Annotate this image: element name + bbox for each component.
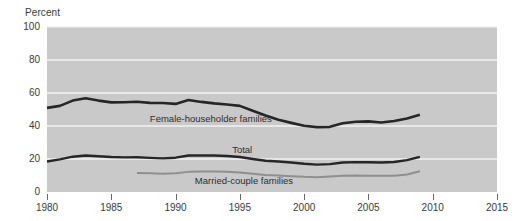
x-axis-tick-label: 1995 <box>220 202 260 213</box>
married-couple-families-label: Married-couple families <box>195 175 293 186</box>
x-axis-tick-label: 1990 <box>156 202 196 213</box>
total-label: Total <box>232 144 252 155</box>
x-axis-ticks <box>48 194 498 200</box>
y-axis-tick-label: 60 <box>14 87 40 98</box>
y-axis-tick-label: 0 <box>14 186 40 197</box>
x-axis-tick-label: 2005 <box>348 202 388 213</box>
x-axis-tick-label: 1980 <box>27 202 67 213</box>
line-chart-plot <box>0 0 519 221</box>
x-axis-tick-label: 2000 <box>284 202 324 213</box>
y-axis-tick-label: 40 <box>14 120 40 131</box>
y-axis-tick-label: 20 <box>14 153 40 164</box>
plot-area <box>47 27 497 192</box>
chart-container: Percent 020406080100 1980198519901995200… <box>0 0 519 221</box>
x-axis-tick-label: 2015 <box>477 202 517 213</box>
plot-background <box>47 27 497 192</box>
y-axis-tick-label: 100 <box>14 21 40 32</box>
x-axis-tick-label: 2010 <box>413 202 453 213</box>
y-axis-tick-label: 80 <box>14 54 40 65</box>
x-axis-tick-label: 1985 <box>91 202 131 213</box>
female-householder-families-label: Female-householder families <box>150 113 272 124</box>
